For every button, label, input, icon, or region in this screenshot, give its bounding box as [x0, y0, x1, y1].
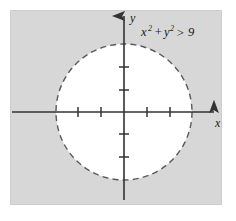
figure-root: y x x 2 + y 2 > 9	[0, 0, 236, 221]
inequality-y-exponent: 2	[170, 24, 174, 33]
coordinate-plane-figure: y x x 2 + y 2 > 9	[0, 0, 236, 221]
inequality-x-base: x	[140, 25, 147, 39]
inequality-greater-than-sign: >	[176, 26, 184, 40]
inequality-right-side-value: 9	[188, 25, 195, 39]
inequality-plus-sign: +	[154, 25, 162, 39]
y-axis-label: y	[129, 11, 136, 25]
x-axis-label: x	[214, 116, 221, 130]
shaded-solution-region	[10, 10, 222, 205]
inequality-x-exponent: 2	[148, 24, 152, 33]
inequality-y-base: y	[162, 25, 170, 39]
